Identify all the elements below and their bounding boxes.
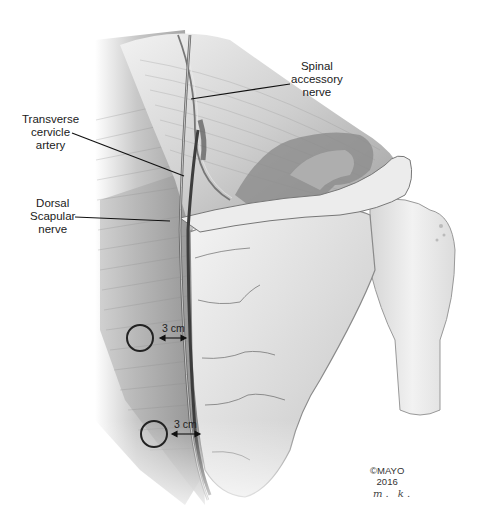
label-line: Spinal xyxy=(291,60,343,73)
label-line: Scapular xyxy=(30,210,75,223)
label-line: Dorsal xyxy=(30,197,75,210)
artist-signature: m. k. xyxy=(373,488,413,499)
label-line: nerve xyxy=(291,86,343,99)
label-spinal-accessory-nerve: Spinal accessory nerve xyxy=(291,60,343,99)
copyright-credit: ©MAYO 2016 xyxy=(370,465,404,487)
label-transverse-cervicle-artery: Transverse cervicle artery xyxy=(22,113,79,152)
measurement-lower: 3 cm xyxy=(174,418,197,430)
copyright-text: ©MAYO xyxy=(370,465,404,476)
copyright-year: 2016 xyxy=(370,476,404,487)
label-line: cervicle xyxy=(22,126,79,139)
shoulder-anatomy-illustration xyxy=(0,0,483,525)
label-line: Transverse xyxy=(22,113,79,126)
label-line: artery xyxy=(22,139,79,152)
label-line: nerve xyxy=(30,223,75,236)
measurement-upper: 3 cm xyxy=(162,322,185,334)
label-dorsal-scapular-nerve: Dorsal Scapular nerve xyxy=(30,197,75,236)
label-line: accessory xyxy=(291,73,343,86)
